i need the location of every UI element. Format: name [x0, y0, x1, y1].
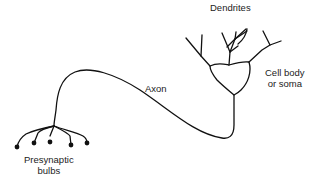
cell-body-shape	[210, 62, 250, 95]
presynaptic-bulbs-label: Presynaptic bulbs	[24, 155, 74, 176]
cell-body-label-line1: Cell body	[265, 68, 305, 79]
presynaptic-bulbs	[15, 140, 90, 150]
dendrites	[186, 29, 281, 66]
axon-line	[54, 70, 234, 138]
axon-label: Axon	[145, 84, 167, 95]
cell-body-label: Cell body or soma	[265, 68, 305, 89]
presynaptic-branches	[17, 126, 87, 147]
presynaptic-label-line2: bulbs	[24, 166, 74, 177]
presynaptic-label-line1: Presynaptic	[24, 155, 74, 166]
dendrites-label: Dendrites	[210, 3, 251, 14]
cell-body-label-line2: or soma	[265, 79, 305, 90]
